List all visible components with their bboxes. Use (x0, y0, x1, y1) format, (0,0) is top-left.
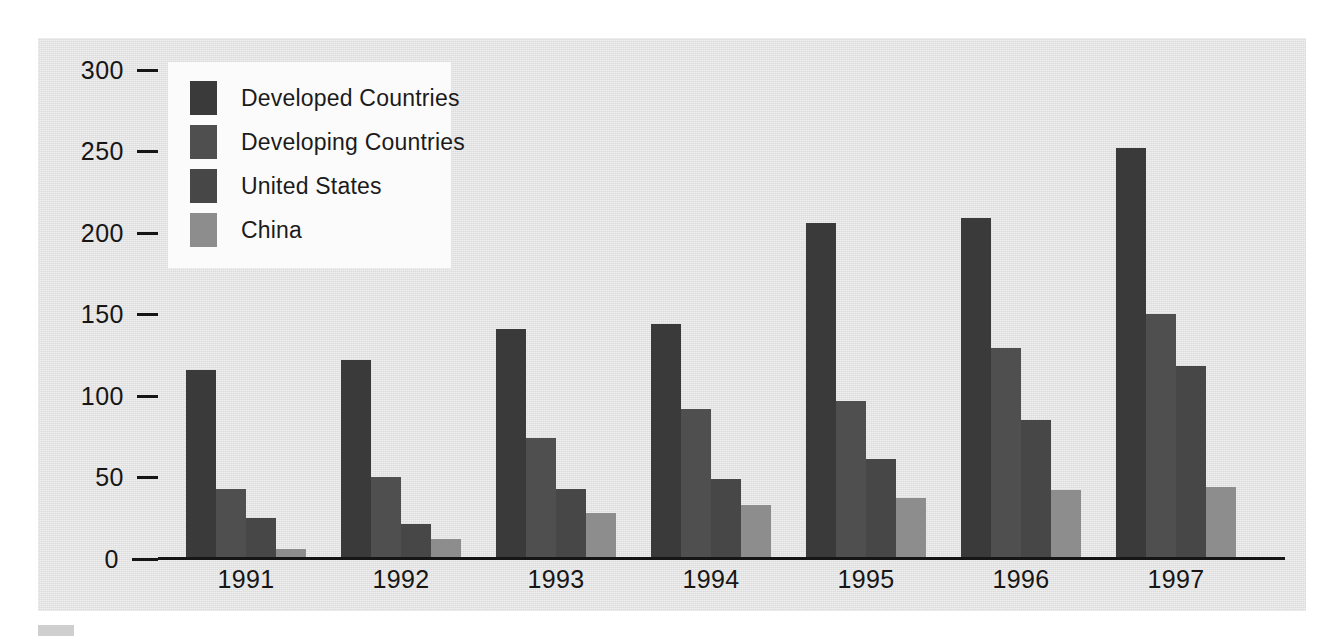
legend-swatch-icon (190, 125, 217, 159)
legend-item-label: United States (241, 173, 382, 200)
bar-rect (741, 505, 771, 557)
y-axis-tick-mark (137, 232, 158, 235)
bar-group (1116, 38, 1236, 557)
bar[interactable] (866, 38, 896, 557)
bar-rect (586, 513, 616, 557)
bar-rect (711, 479, 741, 557)
bar-group (961, 38, 1081, 557)
bar-rect (991, 348, 1021, 557)
bar[interactable] (896, 38, 926, 557)
bar-rect (556, 489, 586, 557)
bar[interactable] (991, 38, 1021, 557)
bar[interactable] (1146, 38, 1176, 557)
bar-rect (246, 518, 276, 557)
bar[interactable] (1051, 38, 1081, 557)
bar[interactable] (586, 38, 616, 557)
x-axis-line (158, 557, 1285, 560)
bar-rect (186, 370, 216, 557)
bar-rect (866, 459, 896, 557)
bar[interactable] (681, 38, 711, 557)
x-axis-tick-label: 1995 (784, 565, 948, 594)
y-axis-tick-mark (137, 313, 158, 316)
y-axis-tick-mark (137, 476, 158, 479)
y-axis-tick-mark (137, 69, 158, 72)
bar-rect (341, 360, 371, 557)
bar[interactable] (836, 38, 866, 557)
legend-swatch-icon (190, 213, 217, 247)
legend: Developed CountriesDeveloping CountriesU… (168, 62, 451, 268)
bar-group (496, 38, 616, 557)
bar-rect (681, 409, 711, 557)
y-axis-tick-label: 300 (81, 58, 124, 83)
legend-item[interactable]: Developing Countries (168, 120, 451, 164)
bar-group (651, 38, 771, 557)
legend-item-label: China (241, 217, 302, 244)
x-axis-tick-label: 1993 (474, 565, 638, 594)
bar-rect (1176, 366, 1206, 557)
y-axis-tick-label: 100 (81, 384, 124, 409)
y-axis-tick-mark (137, 150, 158, 153)
y-axis-tick-label: 250 (81, 139, 124, 164)
bar-rect (496, 329, 526, 557)
x-axis-tick-label: 1991 (164, 565, 328, 594)
bar[interactable] (651, 38, 681, 557)
legend-item-label: Developing Countries (241, 129, 465, 156)
bar-rect (276, 549, 306, 557)
bar-rect (1051, 490, 1081, 557)
chart-panel: 050100150200250300 199119921993199419951… (38, 38, 1306, 611)
bar-rect (961, 218, 991, 557)
caption-mark (38, 625, 74, 636)
bar[interactable] (1021, 38, 1051, 557)
bar[interactable] (1116, 38, 1146, 557)
legend-swatch-icon (190, 169, 217, 203)
bar-rect (216, 489, 246, 557)
bar[interactable] (1206, 38, 1236, 557)
bar-rect (1206, 487, 1236, 557)
y-axis-tick-mark (137, 395, 158, 398)
y-axis-tick-mark (132, 558, 158, 561)
bar[interactable] (496, 38, 526, 557)
bar[interactable] (711, 38, 741, 557)
y-axis-tick-label: 0 (105, 547, 119, 572)
bar-rect (371, 477, 401, 557)
bar[interactable] (741, 38, 771, 557)
x-axis-tick-label: 1996 (939, 565, 1103, 594)
y-axis-tick-label: 150 (81, 302, 124, 327)
bar-rect (806, 223, 836, 557)
legend-swatch-icon (190, 81, 217, 115)
legend-item-label: Developed Countries (241, 85, 460, 112)
bar-rect (1116, 148, 1146, 557)
y-axis: 050100150200250300 (38, 38, 158, 611)
bar-rect (526, 438, 556, 557)
legend-item[interactable]: China (168, 208, 451, 252)
x-axis-tick-label: 1997 (1094, 565, 1258, 594)
bar-group (806, 38, 926, 557)
bar[interactable] (1176, 38, 1206, 557)
x-axis-tick-label: 1992 (319, 565, 483, 594)
bar-rect (401, 524, 431, 557)
bar[interactable] (806, 38, 836, 557)
figure: 050100150200250300 199119921993199419951… (0, 0, 1338, 640)
bar-rect (1021, 420, 1051, 557)
legend-item[interactable]: Developed Countries (168, 76, 451, 120)
bar[interactable] (556, 38, 586, 557)
bar-rect (896, 498, 926, 557)
y-axis-tick-label: 200 (81, 221, 124, 246)
y-axis-tick-label: 50 (95, 465, 124, 490)
legend-item[interactable]: United States (168, 164, 451, 208)
bar-rect (431, 539, 461, 557)
bar[interactable] (961, 38, 991, 557)
bar-rect (651, 324, 681, 557)
bar-rect (836, 401, 866, 557)
bar-rect (1146, 314, 1176, 557)
bar[interactable] (526, 38, 556, 557)
x-axis-tick-label: 1994 (629, 565, 793, 594)
